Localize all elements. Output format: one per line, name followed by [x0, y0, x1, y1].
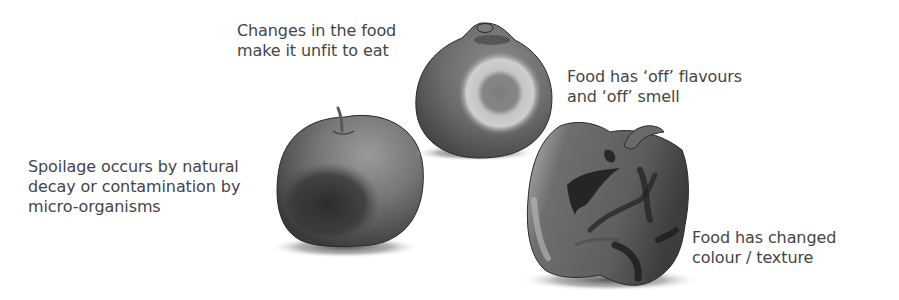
round-fruit-dark-band: [474, 35, 510, 45]
label-line: Changes in the food: [237, 21, 396, 41]
pepper-body: [527, 122, 688, 285]
label-line: micro-organisms: [28, 197, 240, 217]
label-line: Food has ‘off’ flavours: [567, 67, 742, 87]
label-line: make it unfit to eat: [237, 41, 396, 61]
apple-bruise: [285, 162, 381, 238]
label-unfit-to-eat: Changes in the food make it unfit to eat: [237, 21, 396, 61]
label-line: decay or contamination by: [28, 177, 240, 197]
round-fruit-illustration: [413, 23, 552, 161]
label-off-flavours: Food has ‘off’ flavours and ‘off’ smell: [567, 67, 742, 107]
label-line: colour / texture: [692, 248, 836, 268]
label-spoilage-cause: Spoilage occurs by natural decay or cont…: [28, 157, 240, 217]
label-line: Spoilage occurs by natural: [28, 157, 240, 177]
mould-ring: [458, 51, 542, 135]
pepper-illustration: [520, 122, 700, 291]
label-colour-texture: Food has changed colour / texture: [692, 228, 836, 268]
label-line: Food has changed: [692, 228, 836, 248]
apple-illustration: [269, 108, 423, 258]
label-line: and ‘off’ smell: [567, 87, 742, 107]
round-fruit-top-nub: [477, 24, 493, 33]
